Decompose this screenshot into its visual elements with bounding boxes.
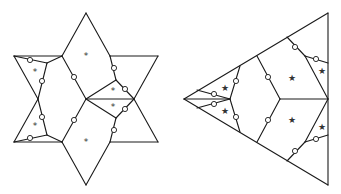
open-circle-node-icon <box>111 65 116 70</box>
open-circle-node-icon <box>292 44 297 49</box>
edge-line <box>47 135 62 142</box>
open-circle-node-icon <box>27 135 32 140</box>
region-mark-icon: ★ <box>288 115 296 125</box>
open-circle-node-icon <box>122 106 127 111</box>
hexagram-diagram: ****** <box>14 13 158 185</box>
figure-canvas: ****** ★★★★★★ <box>0 0 341 194</box>
edge-line <box>62 13 86 56</box>
region-mark-icon: ★ <box>221 106 229 116</box>
edge-line <box>14 56 38 99</box>
open-circle-node-icon <box>265 117 270 122</box>
triangle-edges <box>184 13 328 185</box>
open-circle-node-icon <box>211 91 216 96</box>
open-circle-node-icon <box>39 78 44 83</box>
region-mark-icon: * <box>111 102 116 112</box>
open-circle-node-icon <box>111 127 116 132</box>
region-mark-icon: ★ <box>288 73 296 83</box>
region-mark-icon: * <box>84 51 89 61</box>
open-circle-node-icon <box>71 74 76 79</box>
open-circle-node-icon <box>27 57 32 62</box>
region-mark-icon: * <box>33 67 38 77</box>
region-mark-icon: ★ <box>221 83 229 93</box>
edge-line <box>86 13 110 56</box>
open-circle-node-icon <box>233 78 238 83</box>
open-circle-node-icon <box>233 114 238 119</box>
open-circle-node-icon <box>211 101 216 106</box>
region-mark-icon: * <box>84 137 89 147</box>
region-mark-icon: ★ <box>318 66 326 76</box>
hexagram-edges <box>14 13 158 185</box>
triangle-diagram: ★★★★★★ <box>184 13 328 185</box>
open-circle-node-icon <box>71 117 76 122</box>
edge-line <box>134 99 158 142</box>
open-circle-node-icon <box>313 136 318 141</box>
edge-line <box>86 142 110 185</box>
open-circle-node-icon <box>39 114 44 119</box>
region-mark-icon: * <box>33 121 38 131</box>
edge-line <box>134 56 158 99</box>
region-mark-icon: * <box>111 86 116 96</box>
open-circle-node-icon <box>265 74 270 79</box>
region-mark-icon: ★ <box>318 122 326 132</box>
edge-line <box>62 142 86 185</box>
open-circle-node-icon <box>122 86 127 91</box>
open-circle-node-icon <box>292 148 297 153</box>
open-circle-node-icon <box>313 56 318 61</box>
edge-line <box>47 56 62 63</box>
